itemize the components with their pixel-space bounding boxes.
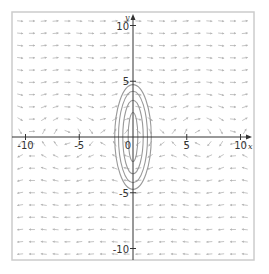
arrowhead-icon <box>171 216 173 218</box>
arrowhead-icon <box>68 118 70 120</box>
arrowhead-icon <box>64 167 66 169</box>
arrowhead-icon <box>100 216 102 218</box>
arrowhead-icon <box>21 20 23 22</box>
arrowhead-icon <box>21 32 23 34</box>
x-tick-label: -5 <box>74 140 84 151</box>
arrowhead-icon <box>64 204 66 206</box>
arrowhead-icon <box>159 179 161 181</box>
arrowhead-icon <box>21 44 23 46</box>
arrowhead-icon <box>218 241 220 243</box>
arrowhead-icon <box>135 241 137 243</box>
arrowhead-icon <box>195 167 197 169</box>
arrowhead-icon <box>68 20 70 22</box>
arrowhead-icon <box>163 81 165 83</box>
arrowhead-icon <box>33 118 35 120</box>
arrowhead-icon <box>80 32 82 34</box>
arrowhead-icon <box>88 228 90 230</box>
arrowhead-icon <box>56 32 58 34</box>
arrowhead-icon <box>92 69 94 71</box>
arrowhead-icon <box>234 118 236 120</box>
arrowhead-icon <box>234 44 236 46</box>
arrowhead-icon <box>100 204 102 206</box>
arrowhead-icon <box>163 94 165 96</box>
arrowhead-icon <box>171 241 173 243</box>
arrowhead-icon <box>159 253 161 255</box>
arrowhead-icon <box>29 204 31 206</box>
arrowhead-icon <box>206 216 208 218</box>
arrowhead-icon <box>68 44 70 46</box>
x-tick-label: 5 <box>184 140 190 151</box>
arrowhead-icon <box>53 241 55 243</box>
y-tick-label: 5 <box>123 76 129 87</box>
arrowhead-icon <box>116 32 118 34</box>
arrowhead-icon <box>171 204 173 206</box>
arrowhead-icon <box>139 32 141 34</box>
arrowhead-icon <box>206 253 208 255</box>
arrowhead-icon <box>206 241 208 243</box>
arrowhead-icon <box>242 253 244 255</box>
arrowhead-icon <box>29 253 31 255</box>
arrowhead-icon <box>230 241 232 243</box>
arrowhead-icon <box>195 253 197 255</box>
arrowhead-icon <box>80 20 82 22</box>
arrowhead-icon <box>112 228 114 230</box>
arrowhead-icon <box>100 228 102 230</box>
arrowhead-icon <box>56 44 58 46</box>
y-tick-label: 10 <box>116 21 129 32</box>
y-tick-label: -10 <box>113 244 129 255</box>
arrowhead-icon <box>33 81 35 83</box>
arrowhead-icon <box>234 106 236 108</box>
arrowhead-icon <box>127 44 129 46</box>
arrowhead-icon <box>116 44 118 46</box>
arrowhead-icon <box>135 216 137 218</box>
arrowhead-icon <box>222 44 224 46</box>
arrowhead-icon <box>33 130 35 132</box>
arrowhead-icon <box>68 81 70 83</box>
arrowhead-icon <box>64 179 66 181</box>
arrowhead-icon <box>198 106 200 108</box>
arrowhead-icon <box>127 32 129 34</box>
arrowhead-icon <box>53 253 55 255</box>
arrowhead-icon <box>171 253 173 255</box>
arrowhead-icon <box>45 32 47 34</box>
arrowhead-icon <box>139 69 141 71</box>
arrowhead-icon <box>246 44 248 46</box>
arrowhead-icon <box>195 228 197 230</box>
arrowhead-icon <box>76 253 78 255</box>
arrowhead-icon <box>29 167 31 169</box>
arrowhead-icon <box>53 216 55 218</box>
arrowhead-icon <box>175 20 177 22</box>
arrowhead-icon <box>29 192 31 194</box>
arrowhead-icon <box>210 69 212 71</box>
arrowhead-icon <box>159 241 161 243</box>
arrowhead-icon <box>64 216 66 218</box>
arrowhead-icon <box>104 93 106 95</box>
y-axis-arrow-icon <box>131 14 136 20</box>
arrowhead-icon <box>45 44 47 46</box>
arrowhead-icon <box>64 253 66 255</box>
x-axis-arrow-icon <box>246 135 252 140</box>
arrowhead-icon <box>183 253 185 255</box>
phase-portrait-plot: -10-50510-10-5510 x y <box>0 0 269 274</box>
x-tick-label: 0 <box>125 140 131 151</box>
arrowhead-icon <box>45 20 47 22</box>
arrowhead-icon <box>163 44 165 46</box>
arrowhead-icon <box>234 32 236 34</box>
arrowhead-icon <box>33 32 35 34</box>
arrowhead-icon <box>57 20 59 22</box>
arrowhead-icon <box>187 20 189 22</box>
arrowhead-icon <box>195 179 197 181</box>
arrowhead-icon <box>198 81 200 83</box>
arrowhead-icon <box>104 20 106 22</box>
arrowhead-icon <box>104 44 106 46</box>
arrowhead-icon <box>234 69 236 71</box>
arrowhead-icon <box>64 228 66 230</box>
arrowhead-icon <box>68 93 70 95</box>
arrowhead-icon <box>17 253 19 255</box>
arrowhead-icon <box>100 167 102 169</box>
arrowhead-icon <box>100 253 102 255</box>
arrowhead-icon <box>195 191 197 193</box>
arrowhead-icon <box>29 228 31 230</box>
arrowhead-icon <box>198 93 200 95</box>
arrowhead-icon <box>159 216 161 218</box>
